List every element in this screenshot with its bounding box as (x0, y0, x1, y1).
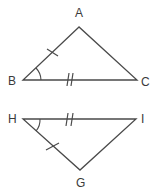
angle-arc-h (36, 119, 40, 131)
vertex-label-a: A (75, 6, 83, 20)
congruent-triangles-diagram: A B C H I G (0, 0, 158, 195)
triangle-abc-outline (23, 27, 137, 80)
triangle-abc: A B C (8, 6, 150, 89)
vertex-label-i: I (141, 112, 144, 126)
triangle-ghi: H I G (8, 112, 144, 190)
vertex-label-g: G (76, 176, 85, 190)
angle-arc-b (36, 68, 41, 80)
vertex-label-h: H (8, 112, 17, 126)
triangle-ghi-outline (23, 119, 136, 170)
vertex-label-b: B (8, 74, 16, 88)
vertex-label-c: C (141, 75, 150, 89)
